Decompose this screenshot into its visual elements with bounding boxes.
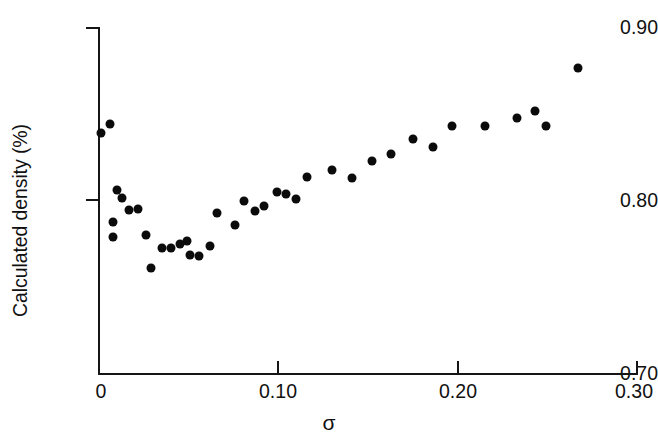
data-point xyxy=(105,119,114,128)
data-point xyxy=(448,122,457,131)
data-point xyxy=(109,218,118,227)
data-point xyxy=(281,189,290,198)
data-point xyxy=(408,134,417,143)
data-point xyxy=(512,113,521,122)
data-point xyxy=(186,250,195,259)
data-point xyxy=(303,172,312,181)
data-point xyxy=(259,202,268,211)
data-point xyxy=(530,106,539,115)
data-point xyxy=(428,143,437,152)
data-point xyxy=(118,194,127,203)
data-point xyxy=(134,204,143,213)
data-point xyxy=(147,264,156,273)
data-point xyxy=(480,122,489,131)
data-point xyxy=(367,157,376,166)
data-point xyxy=(573,63,582,72)
data-point xyxy=(125,206,134,215)
data-point xyxy=(292,195,301,204)
data-point xyxy=(182,236,191,245)
data-point xyxy=(96,128,105,137)
data-point xyxy=(141,231,150,240)
data-point xyxy=(251,207,260,216)
data-point xyxy=(240,196,249,205)
data-point xyxy=(541,122,550,131)
data-point xyxy=(347,174,356,183)
scatter-plot-figure: Calculated density (%) 0.90 0.80 0.70 0 … xyxy=(0,0,658,441)
data-point xyxy=(387,150,396,159)
data-point xyxy=(206,241,215,250)
data-point xyxy=(112,185,121,194)
data-point xyxy=(231,221,240,230)
data-point xyxy=(157,243,166,252)
data-point xyxy=(166,243,175,252)
data-point xyxy=(213,208,222,217)
data-point xyxy=(195,252,204,261)
data-point xyxy=(272,188,281,197)
plot-data-area xyxy=(0,0,658,441)
data-point xyxy=(328,165,337,174)
data-point xyxy=(109,233,118,242)
